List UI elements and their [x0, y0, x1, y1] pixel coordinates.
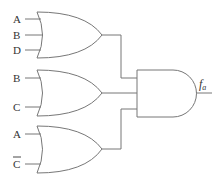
or-gate-3: A C: [13, 126, 102, 173]
input-label-b: B: [13, 72, 20, 84]
or-gate-1: A B D: [13, 12, 102, 58]
and-gate: fa: [137, 70, 212, 117]
input-label-c: C: [13, 101, 20, 113]
logic-circuit-diagram: A B D B C A C fa: [0, 0, 220, 183]
or-gate-2: B C: [13, 70, 102, 116]
wire-or3-to-and: [102, 109, 137, 149]
wire-or1-to-and: [102, 35, 137, 78]
input-label-a: A: [13, 13, 21, 25]
input-label-c-bar: C: [13, 158, 20, 170]
interconnect-wires: [102, 35, 137, 149]
input-label-a: A: [13, 128, 21, 140]
input-label-b: B: [13, 29, 20, 41]
output-label: fa: [199, 77, 206, 92]
input-label-d: D: [13, 44, 21, 56]
